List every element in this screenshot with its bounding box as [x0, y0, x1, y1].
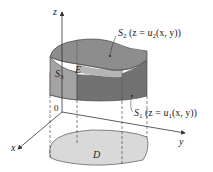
s1-leader — [131, 98, 133, 112]
s2-label: S2 (z = u2(x, y)) — [118, 28, 181, 40]
s2-point — [109, 55, 111, 57]
domain-d-label: D — [93, 150, 100, 160]
z-axis-label: z — [53, 7, 57, 17]
s1-point — [131, 95, 133, 97]
s3-label: S3 — [55, 69, 64, 81]
top-surface-s2 — [50, 39, 147, 70]
y-axis-label: y — [179, 137, 183, 147]
solid-e-label: E — [75, 65, 81, 75]
x-axis-label: x — [11, 143, 15, 153]
origin-label: 0 — [54, 104, 59, 113]
s1-label: S1 (z = u1(x, y)) — [134, 108, 197, 120]
